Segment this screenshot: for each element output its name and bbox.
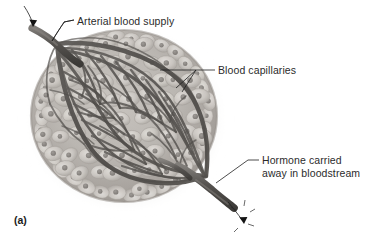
cell-nucleus — [141, 76, 146, 81]
cell-nucleus — [137, 187, 142, 192]
label-blood-capillaries: Blood capillaries — [218, 64, 296, 76]
cell-nucleus — [66, 153, 71, 158]
cell-nucleus — [153, 148, 158, 153]
endocrine-gland-figure: Arterial blood supply Blood capillaries … — [0, 0, 371, 251]
cell-nucleus — [97, 169, 102, 174]
cell-nucleus — [77, 171, 82, 176]
cell-nucleus — [51, 151, 56, 156]
cell-nucleus — [48, 111, 54, 117]
cell-nucleus — [159, 43, 163, 47]
cell-nucleus — [62, 165, 67, 170]
cell-nucleus — [159, 77, 164, 82]
cell-nucleus — [164, 60, 169, 65]
label-arterial-blood-supply: Arterial blood supply — [77, 15, 175, 27]
label-hormone-carried-line1: Hormone carried — [262, 154, 342, 166]
cell-nucleus — [196, 93, 202, 99]
cell-nucleus — [113, 189, 118, 194]
cell-nucleus — [58, 134, 63, 139]
cell-nucleus — [193, 114, 198, 119]
cell-nucleus — [141, 42, 146, 47]
label-hormone-carried-line2: away in bloodstream — [262, 167, 360, 179]
cell-nucleus — [98, 189, 103, 194]
cell-nucleus — [173, 50, 178, 55]
figure-caption: (a) — [14, 214, 27, 226]
gland-diagram-svg: Arterial blood supply Blood capillaries … — [0, 0, 371, 251]
cell-nucleus — [183, 61, 188, 66]
cell-nucleus — [83, 183, 88, 188]
cell-nucleus — [97, 131, 102, 136]
cell-nucleus — [40, 132, 45, 137]
cell-nucleus — [113, 35, 118, 40]
secretory-cell — [52, 130, 69, 143]
cell-nucleus — [49, 77, 55, 83]
